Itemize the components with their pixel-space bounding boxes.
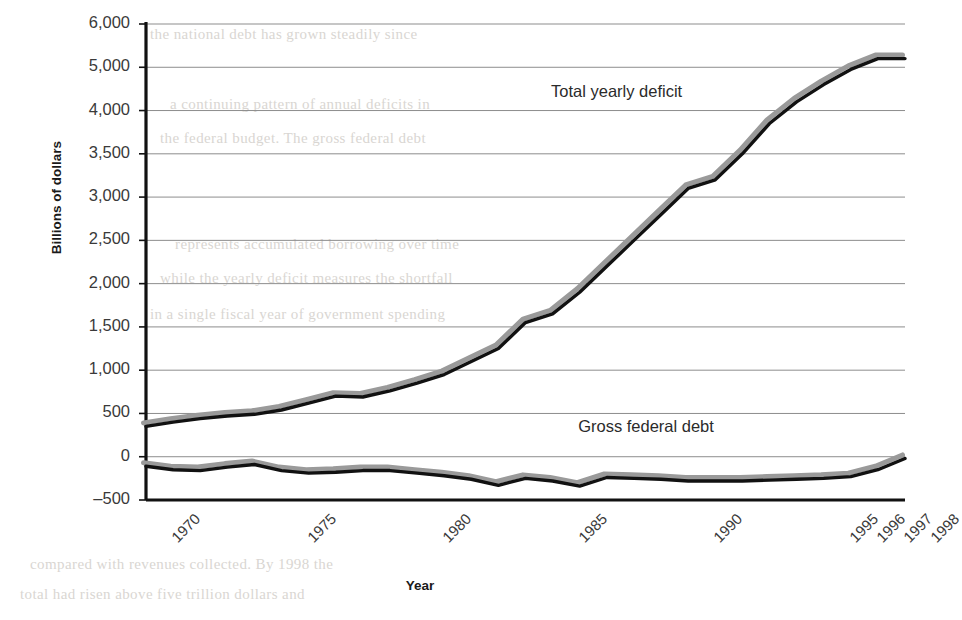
y-tick-label: 500 bbox=[38, 402, 130, 421]
series-label: Total yearly deficit bbox=[551, 82, 682, 101]
y-tick-label: 1,500 bbox=[38, 316, 130, 335]
y-tick-label: 2,500 bbox=[38, 229, 130, 248]
x-axis-title: Year bbox=[360, 578, 480, 593]
y-tick-label: 0 bbox=[38, 446, 130, 465]
y-tick-label: 2,000 bbox=[38, 273, 130, 292]
series-line bbox=[146, 59, 905, 427]
y-tick-label: 4,000 bbox=[38, 100, 130, 119]
y-tick-label: 3,000 bbox=[38, 186, 130, 205]
y-tick-label: 1,000 bbox=[38, 359, 130, 378]
y-tick-label: 6,000 bbox=[38, 13, 130, 32]
y-tick-label: –500 bbox=[38, 489, 130, 508]
y-tick-label: 3,500 bbox=[38, 143, 130, 162]
series-label: Gross federal debt bbox=[578, 417, 714, 436]
y-tick-label: 5,000 bbox=[38, 56, 130, 75]
